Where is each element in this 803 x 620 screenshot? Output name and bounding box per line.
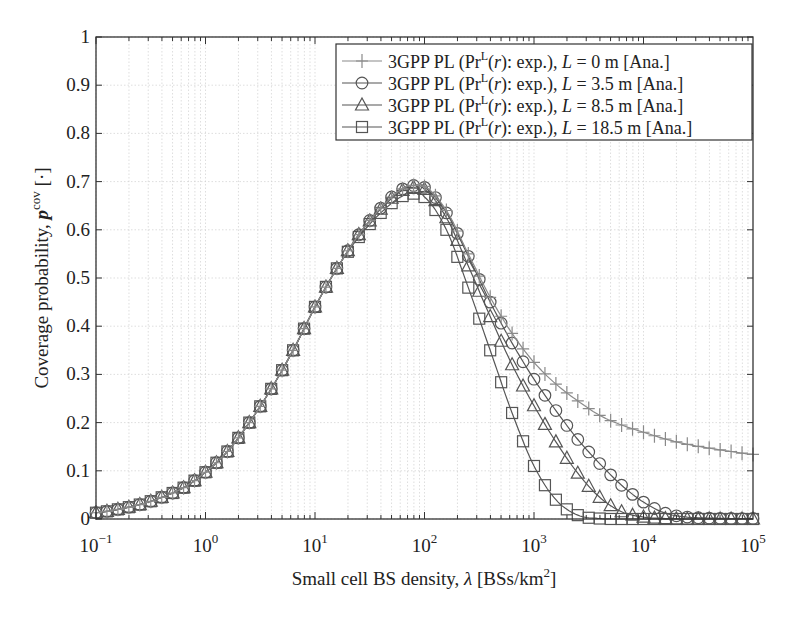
legend-entry: 3GPP PL (PrL(r): exp.), L = 8.5 m [Ana.] xyxy=(342,93,683,117)
x-tick-label: 103 xyxy=(521,531,547,556)
y-tick-label: 0.3 xyxy=(66,363,90,384)
plus-marker xyxy=(550,377,562,391)
plus-marker xyxy=(659,432,671,446)
plus-marker xyxy=(681,437,693,451)
legend-label: 3GPP PL (PrL(r): exp.), L = 3.5 m [Ana.] xyxy=(388,71,683,95)
legend-entry: 3GPP PL (PrL(r): exp.), L = 3.5 m [Ana.] xyxy=(342,71,683,95)
y-tick-label: 0.8 xyxy=(66,122,90,143)
plus-marker xyxy=(561,386,573,400)
legend-entry: 3GPP PL (PrL(r): exp.), L = 18.5 m [Ana.… xyxy=(342,115,692,139)
plus-marker xyxy=(583,402,595,416)
plus-marker xyxy=(594,408,606,422)
legend-label: 3GPP PL (PrL(r): exp.), L = 0 m [Ana.] xyxy=(388,49,670,73)
plus-marker xyxy=(648,429,660,443)
y-tick-label: 0.2 xyxy=(66,412,90,433)
plus-marker xyxy=(638,425,650,439)
x-tick-label: 104 xyxy=(631,531,657,556)
y-axis-title: Coverage probability, pcov [·] xyxy=(28,167,52,388)
legend-entry: 3GPP PL (PrL(r): exp.), L = 0 m [Ana.] xyxy=(342,49,670,73)
plus-marker xyxy=(736,446,748,460)
y-tick-labels: 00.10.20.30.40.50.60.70.80.91 xyxy=(66,26,90,529)
x-tick-label: 10−1 xyxy=(80,531,113,556)
y-tick-label: 0.5 xyxy=(66,267,90,288)
x-tick-label: 100 xyxy=(193,531,219,556)
y-tick-label: 0.4 xyxy=(66,315,90,336)
plus-marker xyxy=(616,418,628,432)
plus-marker xyxy=(572,394,584,408)
y-tick-label: 1 xyxy=(81,26,91,47)
y-tick-label: 0.9 xyxy=(66,74,90,95)
coverage-probability-chart: 10−1100101102103104105 00.10.20.30.40.50… xyxy=(0,0,803,620)
x-tick-labels: 10−1100101102103104105 xyxy=(80,531,766,556)
y-tick-label: 0.6 xyxy=(66,219,90,240)
plus-marker xyxy=(714,443,726,457)
x-tick-label: 101 xyxy=(302,531,328,556)
x-tick-label: 102 xyxy=(412,531,438,556)
x-tick-label: 105 xyxy=(740,531,766,556)
plus-marker xyxy=(725,445,737,459)
plus-marker xyxy=(627,422,639,436)
legend-label: 3GPP PL (PrL(r): exp.), L = 8.5 m [Ana.] xyxy=(388,93,683,117)
y-tick-label: 0.1 xyxy=(66,460,90,481)
legend: 3GPP PL (PrL(r): exp.), L = 0 m [Ana.]3G… xyxy=(336,44,752,140)
plus-marker xyxy=(692,439,704,453)
plus-marker xyxy=(703,441,715,455)
legend-label: 3GPP PL (PrL(r): exp.), L = 18.5 m [Ana.… xyxy=(388,115,692,139)
y-tick-label: 0 xyxy=(81,508,91,529)
x-axis-title: Small cell BS density, λ [BSs/km2] xyxy=(292,565,557,589)
y-tick-label: 0.7 xyxy=(66,171,90,192)
plus-marker xyxy=(605,414,617,428)
plus-marker xyxy=(408,178,420,192)
plus-marker xyxy=(670,435,682,449)
